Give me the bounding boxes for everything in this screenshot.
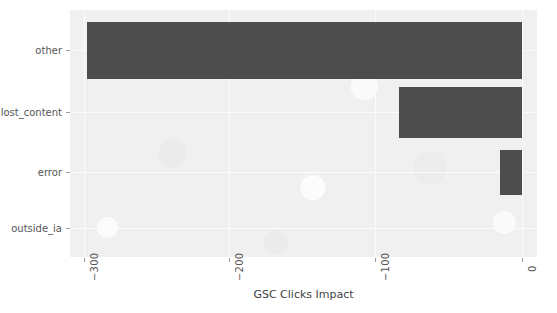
bar-other[interactable] <box>87 22 522 79</box>
xtick-mark--300 <box>84 258 85 262</box>
ytick-mark-other <box>66 50 70 51</box>
bar-chart-figure: other lost_content error outside_ia −300… <box>0 0 557 313</box>
ytick-label-error: error <box>0 167 62 178</box>
xtick-label--200: −200 <box>234 253 245 281</box>
x-axis-title: GSC Clicks Impact <box>70 288 537 301</box>
ytick-label-outside_ia: outside_ia <box>0 223 62 234</box>
xtick-label--100: −100 <box>380 253 391 281</box>
ytick-mark-lost_content <box>66 112 70 113</box>
gridline-x--300 <box>84 10 85 257</box>
gridline-y-outside_ia <box>70 228 537 229</box>
xtick-mark-0 <box>522 258 523 262</box>
gridline-x-0 <box>522 10 523 257</box>
plot-area <box>70 10 537 257</box>
ytick-mark-outside_ia <box>66 228 70 229</box>
xtick-label-0: 0 <box>527 265 538 272</box>
ytick-label-lost_content: lost_content <box>0 107 62 118</box>
xtick-label--300: −300 <box>89 253 100 281</box>
bar-error[interactable] <box>500 150 522 195</box>
ytick-label-other: other <box>0 45 62 56</box>
xtick-mark--200 <box>229 258 230 262</box>
ytick-mark-error <box>66 172 70 173</box>
xtick-mark--100 <box>375 258 376 262</box>
gridline-y-error <box>70 172 537 173</box>
bar-lost_content[interactable] <box>399 87 522 138</box>
